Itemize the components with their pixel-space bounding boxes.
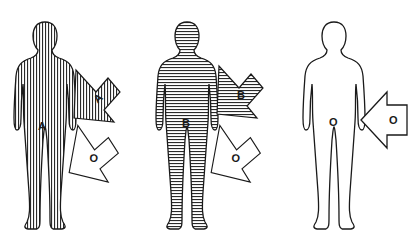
arrow-b: B xyxy=(217,66,263,118)
arrow-left-icon xyxy=(361,92,407,148)
figure-b: B B O xyxy=(156,22,263,229)
arrow-o: O xyxy=(69,125,122,183)
arrow-o: O xyxy=(211,125,264,183)
arrow-label-b: B xyxy=(237,89,245,101)
arrow-o: O xyxy=(361,92,407,148)
blood-type-diagram: A A O B B O O xyxy=(0,0,417,240)
arrow-a: A xyxy=(74,70,120,122)
body-label-a: A xyxy=(38,120,46,132)
figure-o: O O xyxy=(303,22,407,229)
figure-a: A A O xyxy=(14,22,121,229)
body-label-b: B xyxy=(182,117,190,129)
body-label-o: O xyxy=(329,116,338,128)
arrow-label-o: O xyxy=(389,114,398,126)
